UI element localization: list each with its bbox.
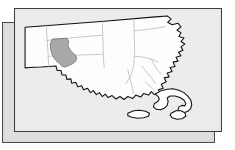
marthas-vineyard-island <box>128 110 150 118</box>
map-holder <box>17 11 219 129</box>
screenshot-root <box>0 0 235 150</box>
massachusetts-state-outline <box>25 16 185 100</box>
right-white-margin <box>223 0 235 150</box>
nantucket-island <box>170 111 186 119</box>
cape-cod-hook <box>153 89 191 113</box>
front-map-panel <box>14 8 222 132</box>
front-map-panel-inner <box>17 11 219 129</box>
massachusetts-county-map <box>17 11 219 129</box>
